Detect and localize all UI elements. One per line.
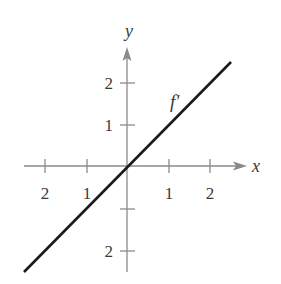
f-prime-label: f′ [170,91,180,112]
x-axis-label: x [251,156,260,176]
x-tick-label-neg2: 2 [41,184,50,203]
x-tick-label-neg1: 1 [83,184,92,203]
y-tick-label-pos1: 1 [105,116,114,135]
y-axis [120,47,135,272]
x-tick-label-pos1: 1 [165,184,174,203]
x-tick-label-pos2: 2 [206,184,215,203]
y-tick-label-neg2: 2 [105,242,114,261]
x-axis [24,159,247,173]
y-axis-label: y [123,21,133,41]
y-tick-label-pos2: 2 [105,74,114,93]
graph-of-f-prime: 2 1 1 2 2 1 2 y x f′ [0,0,281,284]
